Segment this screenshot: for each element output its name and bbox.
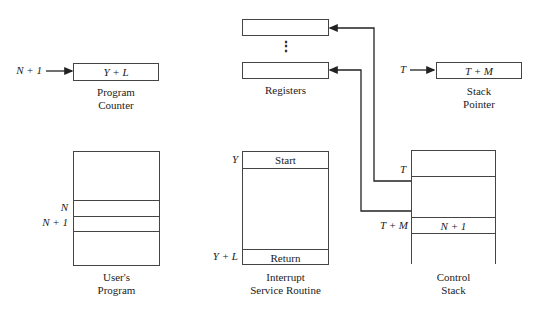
pc-caption-1: Program — [73, 86, 159, 99]
users-program-memory — [73, 151, 160, 266]
stack-cell-tm: N + 1 — [412, 217, 495, 233]
isr-memory: Start Return — [242, 151, 329, 265]
start-divider — [243, 168, 328, 169]
register-1 — [242, 19, 329, 36]
program-counter: Y + L — [73, 63, 159, 81]
stack-tm-divider — [412, 233, 495, 234]
register-2 — [242, 62, 329, 79]
isr-caption-2: Service Routine — [222, 284, 349, 297]
row-n — [74, 200, 159, 217]
sp-caption-2: Pointer — [436, 98, 522, 111]
sp-caption-1: Stack — [436, 85, 522, 98]
registers-caption: Registers — [242, 84, 329, 97]
isr-start: Start — [243, 154, 328, 167]
isr-return: Return — [243, 249, 328, 266]
addr-y-l: Y + L — [202, 250, 238, 262]
row-divider — [74, 231, 159, 232]
control-stack: N + 1 — [411, 150, 496, 264]
cs-caption-1: Control — [411, 271, 496, 284]
stack-pointer: T + M — [436, 62, 522, 79]
stack-addr-tm: T + M — [372, 219, 408, 231]
up-caption-1: User's — [73, 271, 160, 284]
pc-value: Y + L — [74, 66, 158, 79]
sp-input-label: T — [392, 63, 406, 75]
cs-caption-2: Stack — [411, 284, 496, 297]
up-caption-2: Program — [73, 284, 160, 297]
row-n1 — [74, 216, 159, 232]
addr-y: Y — [222, 153, 238, 165]
stack-addr-t: T — [390, 163, 406, 175]
addr-n: N — [40, 201, 68, 213]
isr-caption-1: Interrupt — [222, 271, 349, 284]
pc-input-label: N + 1 — [14, 64, 42, 76]
addr-n1: N + 1 — [30, 216, 68, 228]
sp-value: T + M — [437, 65, 521, 78]
stack-t-divider — [412, 176, 495, 177]
ellipsis-icon: ⋮ — [242, 40, 329, 53]
pc-caption-2: Counter — [73, 99, 159, 112]
